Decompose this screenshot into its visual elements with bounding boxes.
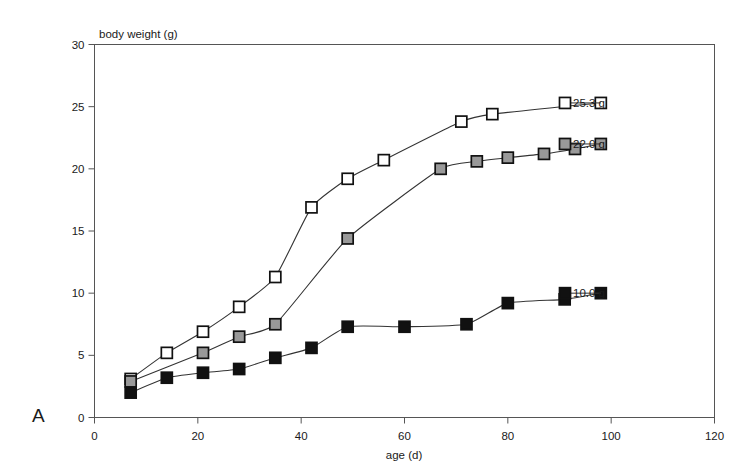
- data-point-marker: [456, 116, 467, 127]
- x-tick-label: 60: [398, 430, 411, 442]
- data-point-marker: [461, 319, 472, 330]
- endpoint-label: 22.0 g: [573, 138, 605, 150]
- x-tick-label: 0: [91, 430, 97, 442]
- data-point-marker: [125, 376, 136, 387]
- y-tick-label: 25: [72, 101, 85, 113]
- x-axis-title: age (d): [386, 449, 423, 461]
- data-point-marker: [198, 326, 209, 337]
- endpoint-label: 10.0 g: [573, 287, 605, 299]
- endpoint-marker: [560, 288, 571, 299]
- endpoint-marker: [560, 138, 571, 149]
- data-point-marker: [502, 152, 513, 163]
- x-tick-label: 100: [602, 430, 621, 442]
- x-tick-label: 80: [501, 430, 514, 442]
- data-point-marker: [198, 367, 209, 378]
- data-point-marker: [378, 155, 389, 166]
- data-point-marker: [234, 331, 245, 342]
- data-point-marker: [306, 202, 317, 213]
- data-point-marker: [539, 148, 550, 159]
- data-point-marker: [234, 364, 245, 375]
- figure-panel: body weight (g) age (d) A 051015202530 0…: [0, 0, 734, 476]
- chart-background: [0, 0, 734, 476]
- y-tick-label: 10: [72, 287, 85, 299]
- y-axis-title: body weight (g): [99, 28, 178, 40]
- x-tick-label: 40: [295, 430, 308, 442]
- y-tick-label: 15: [72, 225, 85, 237]
- data-point-marker: [270, 319, 281, 330]
- data-point-marker: [342, 321, 353, 332]
- data-point-marker: [399, 321, 410, 332]
- panel-label: A: [32, 405, 45, 426]
- endpoint-marker: [560, 97, 571, 108]
- data-point-marker: [270, 272, 281, 283]
- data-point-marker: [198, 347, 209, 358]
- data-point-marker: [435, 163, 446, 174]
- y-tick-label: 20: [72, 163, 85, 175]
- x-tick-label: 120: [705, 430, 724, 442]
- data-point-marker: [125, 387, 136, 398]
- data-point-marker: [342, 233, 353, 244]
- data-point-marker: [270, 352, 281, 363]
- data-point-marker: [161, 347, 172, 358]
- data-point-marker: [487, 109, 498, 120]
- y-tick-label: 0: [78, 412, 84, 424]
- data-point-marker: [234, 301, 245, 312]
- data-point-marker: [342, 173, 353, 184]
- growth-curve-chart: body weight (g) age (d) A 051015202530 0…: [0, 0, 734, 476]
- data-point-marker: [161, 372, 172, 383]
- x-tick-label: 20: [191, 430, 204, 442]
- data-point-marker: [502, 298, 513, 309]
- data-point-marker: [471, 156, 482, 167]
- y-tick-label: 30: [72, 39, 85, 51]
- y-tick-label: 5: [78, 349, 84, 361]
- data-point-marker: [306, 342, 317, 353]
- endpoint-label: 25.3 g: [573, 97, 605, 109]
